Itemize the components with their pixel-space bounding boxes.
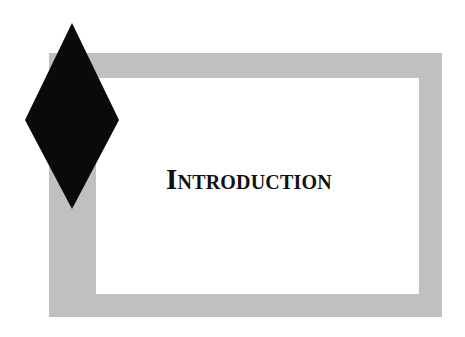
page-title: Introduction xyxy=(166,163,332,195)
